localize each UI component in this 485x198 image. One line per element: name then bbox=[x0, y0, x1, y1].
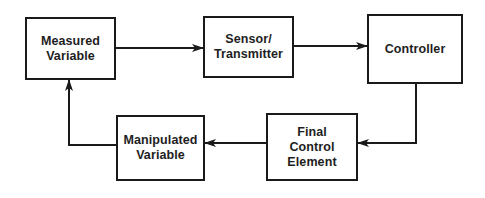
block-controller: Controller bbox=[367, 14, 463, 84]
block-label: Final Control Element bbox=[287, 125, 336, 170]
block-final-control-element: Final Control Element bbox=[266, 113, 358, 181]
arrow-controller-to-final-element bbox=[358, 84, 416, 143]
arrow-manipulated-to-measured bbox=[69, 80, 116, 145]
block-measured-variable: Measured Variable bbox=[25, 17, 116, 80]
block-manipulated-variable: Manipulated Variable bbox=[116, 115, 205, 181]
control-loop-diagram: Measured Variable Sensor/ Transmitter Co… bbox=[0, 0, 485, 198]
block-label: Measured Variable bbox=[41, 34, 100, 64]
block-sensor-transmitter: Sensor/ Transmitter bbox=[203, 16, 294, 78]
block-label: Controller bbox=[385, 42, 446, 57]
block-label: Manipulated Variable bbox=[123, 133, 197, 163]
block-label: Sensor/ Transmitter bbox=[214, 32, 283, 62]
